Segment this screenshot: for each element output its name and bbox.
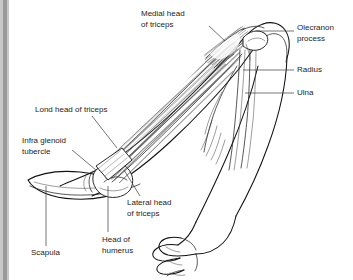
anatomy-illustration: Medial headof tricepsOlecranonprocessRad… (0, 0, 353, 280)
radius-shaft (229, 50, 240, 170)
label-line: Ulna (297, 88, 314, 97)
leader-line-medial-head-of-triceps (209, 26, 225, 41)
forearm-shading (201, 120, 225, 164)
label-infra-glenoid-tubercle: Infra glenoidtubercle (22, 136, 66, 156)
label-line: of triceps (141, 20, 173, 29)
label-lateral-head-of-triceps: Lateral headof triceps (127, 198, 171, 218)
label-line: Scapula (31, 248, 60, 257)
label-texts: Medial headof tricepsOlecranonprocessRad… (22, 9, 334, 257)
label-scapula: Scapula (31, 248, 60, 257)
label-ulna: Ulna (297, 88, 314, 97)
clenched-fist (153, 216, 236, 276)
leader-line-long-head-of-triceps (92, 116, 117, 148)
label-line: Lateral head (127, 198, 171, 207)
anatomy-figure: Medial headof tricepsOlecranonprocessRad… (0, 0, 353, 280)
label-line: tubercle (22, 147, 51, 156)
label-line: Medial head (141, 9, 185, 18)
label-line: Lond head of triceps (35, 105, 108, 114)
label-line: process (297, 34, 325, 43)
label-line: Radius (297, 65, 322, 74)
label-line: of triceps (127, 209, 159, 218)
leader-line-infra-glenoid-tubercle (72, 150, 96, 170)
label-line: humerus (102, 246, 133, 255)
label-olecranon-process: Olecranonprocess (297, 23, 334, 43)
label-long-head-of-triceps: Lond head of triceps (35, 105, 108, 114)
leader-lines (46, 26, 294, 246)
label-radius: Radius (297, 65, 322, 74)
label-line: Head of (102, 235, 131, 244)
label-line: Infra glenoid (22, 136, 66, 145)
label-medial-head-of-triceps: Medial headof triceps (141, 9, 185, 29)
label-head-of-humerus: Head ofhumerus (102, 235, 133, 255)
medial-head-tendon-sheen (210, 33, 240, 59)
arm-outline (60, 23, 289, 222)
ulna-shaft (241, 44, 250, 168)
scan-edge-band (0, 0, 9, 280)
label-line: Olecranon (297, 23, 334, 32)
olecranon-process-shape (243, 31, 268, 50)
medial-head-triceps-belly (195, 24, 255, 74)
